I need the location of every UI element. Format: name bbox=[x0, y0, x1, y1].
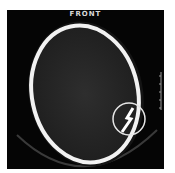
orientation-label: FRONT bbox=[7, 10, 164, 19]
skull-scan-graphic bbox=[7, 10, 164, 169]
skull-bone bbox=[19, 15, 151, 169]
ct-scan-image: FRONT bbox=[7, 10, 164, 169]
scale-ruler bbox=[159, 72, 161, 110]
